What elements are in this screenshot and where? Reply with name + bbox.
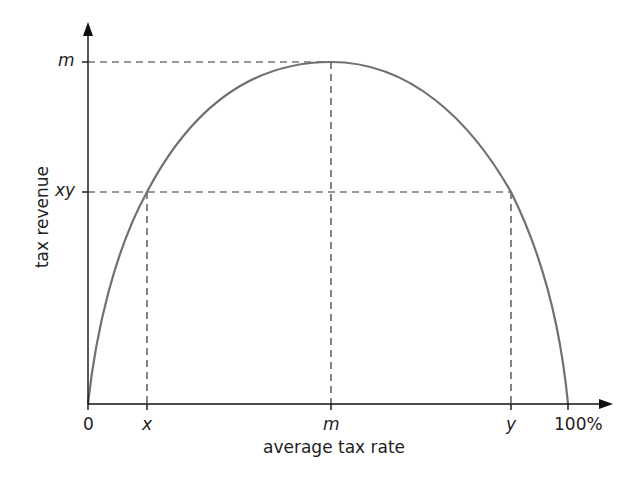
x-tick-y: y bbox=[506, 414, 516, 434]
y-axis-title: tax revenue bbox=[32, 166, 52, 268]
reference-lines bbox=[88, 62, 511, 404]
x-tick-x: x bbox=[142, 414, 152, 434]
y-axis-arrow-icon bbox=[83, 22, 93, 36]
x-tick-m: m bbox=[323, 414, 340, 434]
axes bbox=[82, 30, 606, 410]
x-axis-arrow-icon bbox=[599, 399, 613, 409]
revenue-curve bbox=[88, 62, 568, 404]
laffer-curve-chart bbox=[0, 0, 638, 479]
x-tick-0: 0 bbox=[83, 414, 94, 434]
y-tick-m: m bbox=[58, 50, 75, 70]
x-tick-100: 100% bbox=[554, 414, 603, 434]
y-tick-xy: xy bbox=[55, 180, 75, 200]
x-axis-title: average tax rate bbox=[263, 437, 405, 457]
